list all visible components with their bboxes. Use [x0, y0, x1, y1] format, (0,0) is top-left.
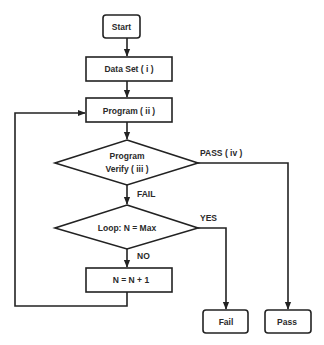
- data-set-label: Data Set ( i ): [104, 64, 153, 74]
- edge-verify-pass: [198, 163, 288, 309]
- edge-loop-yes: [198, 228, 226, 309]
- data-set-node: Data Set ( i ): [86, 57, 172, 81]
- pass-label: Pass: [277, 317, 297, 327]
- fail-label: Fail: [219, 317, 234, 327]
- yes-edge-label: YES: [200, 213, 217, 223]
- program-node: Program ( ii ): [86, 98, 172, 122]
- loop-check-label: Loop: N = Max: [98, 223, 157, 233]
- start-node: Start: [103, 15, 140, 38]
- fail-node: Fail: [203, 310, 248, 333]
- program-label: Program ( ii ): [103, 106, 156, 116]
- verify-label-line1: Program: [110, 151, 145, 161]
- increment-node: N = N + 1: [86, 268, 172, 292]
- start-label: Start: [112, 22, 132, 32]
- pass-edge-label: PASS ( iv ): [200, 148, 243, 158]
- increment-label: N = N + 1: [113, 275, 150, 285]
- verify-label-line2: Verify ( iii ): [106, 164, 149, 174]
- no-edge-label: NO: [137, 251, 150, 261]
- flowchart: Start Data Set ( i ) Program ( ii ) Prog…: [0, 0, 324, 345]
- loop-check-decision: Loop: N = Max: [55, 205, 198, 249]
- pass-node: Pass: [265, 310, 311, 333]
- program-verify-decision: Program Verify ( iii ): [55, 140, 198, 185]
- fail-edge-label: FAIL: [137, 189, 155, 199]
